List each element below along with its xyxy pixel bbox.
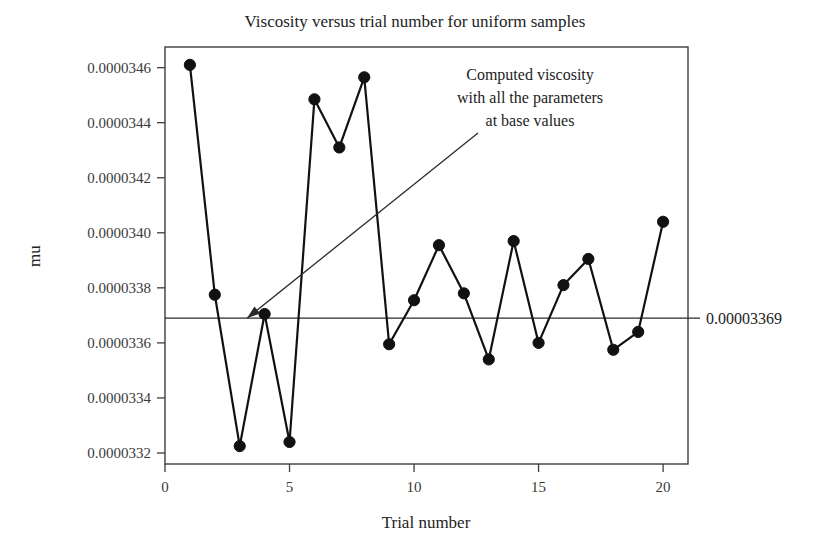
- data-point-markers: [184, 59, 668, 451]
- data-point-marker: [284, 436, 295, 447]
- data-point-marker: [384, 339, 395, 350]
- viscosity-line-chart: Viscosity versus trial number for unifor…: [0, 0, 830, 553]
- data-point-marker: [508, 235, 519, 246]
- chart-title: Viscosity versus trial number for unifor…: [245, 12, 586, 31]
- x-axis-ticks: 05101520: [161, 464, 670, 495]
- annotation-leader-line: [247, 133, 478, 318]
- data-point-marker: [234, 441, 245, 452]
- y-tick-label: 0.0000346: [87, 60, 151, 76]
- y-axis-label: mu: [25, 245, 44, 267]
- annotation-arrow-head: [247, 306, 260, 318]
- y-tick-label: 0.0000336: [87, 335, 151, 351]
- chart-figure: Viscosity versus trial number for unifor…: [0, 0, 830, 553]
- data-point-marker: [209, 289, 220, 300]
- reference-line-value-label: 0.00003369: [706, 310, 782, 327]
- x-tick-label: 20: [656, 479, 671, 495]
- data-point-marker: [633, 326, 644, 337]
- y-axis-ticks: 0.00003320.00003340.00003360.00003380.00…: [87, 60, 165, 461]
- data-point-marker: [433, 240, 444, 251]
- y-tick-label: 0.0000344: [87, 115, 151, 131]
- annotation-line-2: with all the parameters: [457, 89, 603, 107]
- data-point-marker: [309, 94, 320, 105]
- data-point-marker: [583, 253, 594, 264]
- data-point-marker: [359, 72, 370, 83]
- data-point-marker: [608, 344, 619, 355]
- x-tick-label: 10: [407, 479, 422, 495]
- data-point-marker: [184, 59, 195, 70]
- annotation-line-3: at base values: [486, 112, 575, 129]
- data-point-marker: [458, 288, 469, 299]
- y-tick-label: 0.0000338: [87, 280, 151, 296]
- x-tick-label: 15: [531, 479, 546, 495]
- data-point-marker: [558, 279, 569, 290]
- plot-frame: [165, 47, 688, 464]
- data-point-marker: [658, 216, 669, 227]
- x-axis-label: Trial number: [382, 513, 471, 532]
- y-tick-label: 0.0000340: [87, 225, 151, 241]
- data-point-marker: [408, 295, 419, 306]
- y-tick-label: 0.0000342: [87, 170, 151, 186]
- data-point-marker: [259, 308, 270, 319]
- y-tick-label: 0.0000334: [87, 390, 151, 406]
- x-tick-label: 5: [286, 479, 294, 495]
- data-point-marker: [483, 354, 494, 365]
- data-point-marker: [533, 337, 544, 348]
- x-tick-label: 0: [161, 479, 169, 495]
- annotation-line-1: Computed viscosity: [466, 66, 594, 84]
- data-point-marker: [334, 142, 345, 153]
- y-tick-label: 0.0000332: [87, 445, 151, 461]
